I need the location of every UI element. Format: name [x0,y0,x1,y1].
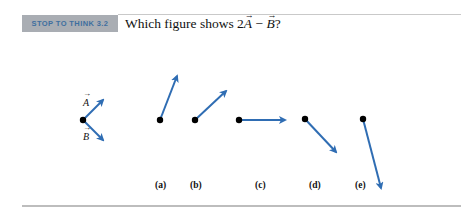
option-c-figure [236,117,285,123]
option-d-label: (d) [309,180,321,190]
vector-a-label: A [83,97,89,108]
option-e-figure [360,116,381,188]
option-a-figure [157,76,177,123]
option-b-figure [192,91,226,123]
vector-figures [0,0,461,214]
option-e-label: (e) [355,180,366,190]
option-b-label: (b) [190,180,202,190]
vector-b-label: B [83,131,89,142]
option-c-label: (c) [255,180,266,190]
option-d-figure [302,116,336,152]
bottom-rule [22,205,461,207]
option-a-label: (a) [155,180,166,190]
